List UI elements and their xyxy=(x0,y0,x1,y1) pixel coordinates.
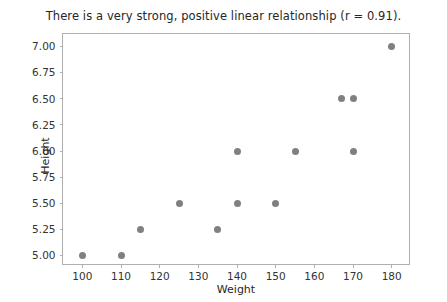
data-point xyxy=(350,148,357,155)
x-tick-label: 140 xyxy=(227,268,247,282)
x-tick-label: 100 xyxy=(72,268,92,282)
x-tick-label: 110 xyxy=(111,268,131,282)
data-point xyxy=(292,148,299,155)
data-point xyxy=(118,252,125,259)
y-tick-mark xyxy=(60,229,64,230)
chart-title: There is a very strong, positive linear … xyxy=(0,9,447,23)
y-tick-mark xyxy=(60,98,64,99)
y-axis-label: Height xyxy=(39,106,52,206)
data-point xyxy=(79,252,86,259)
data-point xyxy=(234,148,241,155)
data-point xyxy=(388,43,395,50)
y-tick-label: 6.75 xyxy=(32,67,59,78)
scatter-plot-figure: There is a very strong, positive linear … xyxy=(0,0,447,302)
y-tick-mark xyxy=(60,72,64,73)
data-point xyxy=(234,200,241,207)
y-tick-label: 5.25 xyxy=(32,224,59,235)
x-tick-label: 180 xyxy=(382,268,402,282)
data-point xyxy=(137,226,144,233)
y-tick-mark xyxy=(60,255,64,256)
data-point xyxy=(338,95,345,102)
x-axis-label: Weight xyxy=(62,283,410,296)
y-tick-mark xyxy=(60,177,64,178)
data-point xyxy=(176,200,183,207)
y-tick-mark xyxy=(60,124,64,125)
y-tick-label: 6.50 xyxy=(32,94,59,105)
x-tick-label: 120 xyxy=(150,268,170,282)
data-point xyxy=(350,95,357,102)
x-tick-label: 160 xyxy=(304,268,324,282)
x-tick-label: 130 xyxy=(188,268,208,282)
y-tick-label: 5.00 xyxy=(32,250,59,261)
plot-area: 5.005.255.505.756.006.256.506.757.00 100… xyxy=(62,33,410,265)
data-point xyxy=(214,226,221,233)
x-tick-label: 150 xyxy=(266,268,286,282)
x-tick-label: 170 xyxy=(343,268,363,282)
y-tick-label: 7.00 xyxy=(32,41,59,52)
y-tick-mark xyxy=(60,46,64,47)
y-tick-mark xyxy=(60,203,64,204)
data-point xyxy=(272,200,279,207)
y-tick-mark xyxy=(60,151,64,152)
